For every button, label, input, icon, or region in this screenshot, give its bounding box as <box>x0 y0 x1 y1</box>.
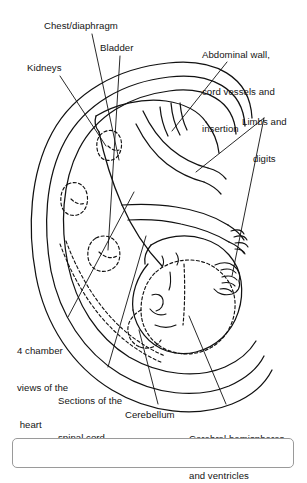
label-four-chamber-line-1: 4 chamber <box>17 345 68 357</box>
label-chest-diaphragm: Chest/diaphragm <box>44 20 118 32</box>
fetal-hand-digits <box>214 263 240 295</box>
bottom-panel <box>12 438 294 468</box>
bladder-outline-dashed <box>88 236 120 271</box>
fetal-lower-limb <box>122 204 244 253</box>
label-limbs-line-2: digits <box>242 153 287 165</box>
leader-cerebral <box>189 316 226 404</box>
label-abdominal-wall-line-1: Abdominal wall, <box>202 49 275 61</box>
cerebral-hemispheres-dashed <box>141 260 235 354</box>
label-cerebral-line-2: and ventricles <box>189 470 284 482</box>
label-cerebellum: Cerebellum <box>125 409 175 421</box>
fetal-face-features <box>150 253 178 327</box>
leader-cerebellum <box>139 330 158 404</box>
label-kidneys: Kidneys <box>27 62 61 74</box>
label-sections-line-1: Sections of the <box>58 395 122 407</box>
leader-four-chamber <box>68 192 134 317</box>
leader-bladder <box>108 56 120 250</box>
label-bladder: Bladder <box>100 42 133 54</box>
label-limbs-and-digits: Limbs and digits <box>242 92 287 190</box>
label-limbs-line-1: Limbs and <box>242 116 287 128</box>
